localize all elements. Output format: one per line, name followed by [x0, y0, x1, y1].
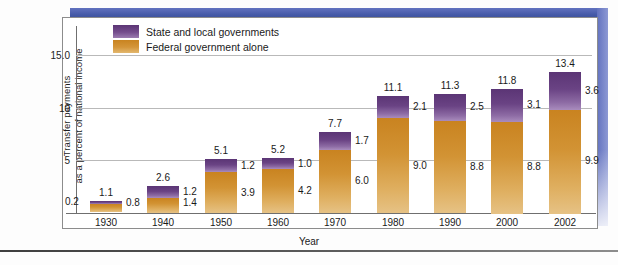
bar-segment-state-local-1950: [205, 159, 237, 172]
y-axis-tick-labels: 15.0105: [36, 26, 70, 213]
bar-state-local-label-1950: 1.2: [241, 160, 255, 171]
bar-segment-state-local-1990: [434, 94, 466, 120]
bar-federal-label-2002: 9.9: [585, 155, 599, 166]
bar-segment-federal-1960: [262, 169, 294, 213]
legend-label-state-local: State and local governments: [146, 26, 279, 38]
bar-total-label-1950: 5.1: [214, 145, 228, 156]
bar-1960: [262, 158, 294, 213]
legend-swatch-federal-icon: [113, 40, 139, 53]
x-tick-label-2000: 2000: [496, 217, 518, 228]
bar-federal-label-1930: 0.8: [126, 197, 140, 208]
x-tick-label-1970: 1970: [324, 217, 346, 228]
page-bottom-rule: [0, 250, 618, 252]
bar-state-local-label-1930: 0.2: [65, 196, 79, 207]
bar-state-local-label-1990: 2.5: [470, 101, 484, 112]
bar-federal-label-1990: 8.8: [470, 161, 484, 172]
bar-state-local-label-1960: 1.0: [298, 158, 312, 169]
bar-total-label-2000: 11.8: [498, 75, 517, 86]
legend-swatch-state-icon: [113, 25, 139, 38]
bar-state-local-label-1980: 2.1: [413, 101, 427, 112]
bar-total-label-1980: 11.1: [384, 82, 403, 93]
bar-segment-federal-1970: [319, 150, 351, 213]
bar-segment-state-local-1970: [319, 132, 351, 150]
bar-segment-state-local-1940: [147, 186, 179, 199]
chart-legend: State and local governments Federal gove…: [113, 24, 279, 54]
bar-2000: [491, 89, 523, 213]
x-tick-label-1940: 1940: [152, 217, 174, 228]
bar-segment-federal-1980: [377, 118, 409, 213]
bar-1930: [90, 201, 122, 213]
chart-figure: Transfer payments as a percent of nation…: [0, 0, 618, 265]
x-axis-title: Year: [0, 236, 618, 247]
bar-total-label-2002: 13.4: [555, 58, 574, 69]
y-tick-label-15.0: 15.0: [51, 50, 70, 61]
gridline-15.0: [76, 55, 592, 56]
bar-2002: [549, 72, 581, 213]
legend-item-state-local: State and local governments: [113, 24, 279, 39]
bar-segment-state-local-1960: [262, 158, 294, 169]
x-tick-label-1980: 1980: [382, 217, 404, 228]
x-tick-label-1930: 1930: [95, 217, 117, 228]
bar-federal-label-1950: 3.9: [241, 187, 255, 198]
bar-segment-federal-2000: [491, 122, 523, 214]
x-tick-label-2002: 2002: [554, 217, 576, 228]
bar-1980: [377, 96, 409, 213]
bar-1990: [434, 94, 466, 213]
y-tick-label-5: 5: [64, 155, 70, 166]
bar-state-local-label-1940: 1.2: [183, 186, 197, 197]
x-tick-label-1960: 1960: [267, 217, 289, 228]
bar-1940: [147, 186, 179, 213]
bar-total-label-1930: 1.1: [99, 187, 113, 198]
bar-segment-state-local-2002: [549, 72, 581, 110]
bar-state-local-label-2002: 3.6: [585, 85, 599, 96]
bar-segment-federal-1990: [434, 121, 466, 213]
bar-1970: [319, 132, 351, 213]
bar-segment-state-local-2000: [491, 89, 523, 122]
x-tick-label-1990: 1990: [439, 217, 461, 228]
bar-federal-label-1980: 9.0: [413, 160, 427, 171]
bar-segment-federal-1950: [205, 172, 237, 213]
bar-federal-label-1960: 4.2: [298, 185, 312, 196]
bar-segment-federal-2002: [549, 110, 581, 214]
bar-total-label-1940: 2.6: [156, 172, 170, 183]
bar-segment-federal-1930: [90, 204, 122, 212]
bar-federal-label-1970: 6.0: [355, 175, 369, 186]
bar-total-label-1990: 11.3: [441, 80, 460, 91]
bar-federal-label-1940: 1.4: [183, 197, 197, 208]
legend-item-federal: Federal government alone: [113, 39, 279, 54]
bar-segment-state-local-1980: [377, 96, 409, 118]
bar-total-label-1960: 5.2: [271, 144, 285, 155]
bar-segment-federal-1940: [147, 198, 179, 213]
plot-area: 1.10.20.82.61.21.45.11.23.95.21.04.27.71…: [76, 26, 592, 213]
y-tick-label-10: 10: [59, 102, 70, 113]
x-tick-label-1950: 1950: [210, 217, 232, 228]
legend-label-federal: Federal government alone: [146, 41, 269, 53]
bar-total-label-1970: 7.7: [328, 118, 342, 129]
bar-federal-label-2000: 8.8: [527, 161, 541, 172]
bar-1950: [205, 159, 237, 213]
bar-state-local-label-2000: 3.1: [527, 99, 541, 110]
bar-state-local-label-1970: 1.7: [355, 135, 369, 146]
